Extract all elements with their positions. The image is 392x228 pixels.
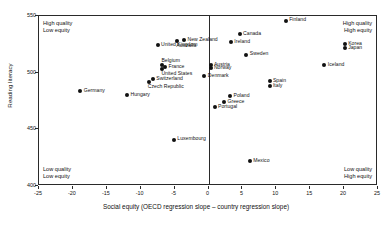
data-point xyxy=(343,46,347,50)
data-point xyxy=(268,84,272,88)
data-point-label: Iceland xyxy=(328,62,345,68)
data-point-label: United Kingdom xyxy=(161,42,198,48)
quadrant-note-bottom-left-line2: Low equity xyxy=(43,173,71,180)
y-axis-tick-label: 400 xyxy=(27,182,36,188)
data-point xyxy=(172,138,176,142)
x-axis-tick-label: -5 xyxy=(171,190,176,196)
x-axis-tick-label: -25 xyxy=(34,190,42,196)
y-axis-tick-label: 450 xyxy=(27,125,36,131)
quadrant-note-bottom-left-line1: Low quality xyxy=(43,166,71,172)
data-point-label: Switzerland xyxy=(156,76,183,82)
data-point-label: Japan xyxy=(348,45,362,51)
data-point xyxy=(78,89,82,93)
scatter-chart-figure: High quality Low equity High quality Hig… xyxy=(0,0,392,228)
data-point-label: France xyxy=(169,64,185,70)
x-axis-tick-label: 25 xyxy=(374,190,380,196)
x-axis-tick xyxy=(106,186,107,189)
data-point xyxy=(209,66,213,70)
y-axis-tick-label: 550 xyxy=(27,12,36,18)
data-point-label: Czech Republic xyxy=(148,84,184,90)
data-point xyxy=(213,105,217,109)
x-axis-tick xyxy=(343,186,344,189)
data-point-label: Finland xyxy=(289,17,306,23)
data-point-label: Italy xyxy=(273,83,282,89)
data-point xyxy=(268,79,272,83)
data-point xyxy=(238,32,242,36)
data-point-label: Norway xyxy=(214,65,231,71)
x-axis-tick xyxy=(309,186,310,189)
data-point-label: Hungary xyxy=(131,92,150,98)
x-axis-tick xyxy=(174,186,175,189)
quadrant-note-bottom-right: Low quality High equity xyxy=(344,166,372,180)
x-axis-tick-label: 20 xyxy=(340,190,346,196)
data-point xyxy=(156,43,160,47)
data-point xyxy=(248,159,252,163)
data-point xyxy=(229,40,233,44)
data-point-label: Sweden xyxy=(250,51,269,57)
y-axis-label: Reading literacy xyxy=(6,41,13,131)
y-axis-tick-label: 500 xyxy=(27,69,36,75)
data-point-label: Luxembourg xyxy=(177,136,206,142)
plot-area: High quality Low equity High quality Hig… xyxy=(38,15,377,185)
x-axis-tick xyxy=(72,186,73,189)
quadrant-note-top-right: High quality High equity xyxy=(343,20,372,34)
x-axis-tick-label: 10 xyxy=(272,190,278,196)
x-axis-tick xyxy=(275,186,276,189)
data-point-label: Portugal xyxy=(218,104,237,110)
data-point-label: Mexico xyxy=(253,158,269,164)
quadrant-note-top-left: High quality Low equity xyxy=(43,20,72,34)
quadrant-note-bottom-left: Low quality Low equity xyxy=(43,166,71,180)
x-axis-tick-label: -10 xyxy=(136,190,144,196)
data-point-label: Germany xyxy=(84,88,105,94)
x-axis-tick-label: -15 xyxy=(102,190,110,196)
data-point xyxy=(202,74,206,78)
data-point-label: Canada xyxy=(243,31,261,37)
data-point-label: Denmark xyxy=(208,73,229,79)
x-axis-tick-label: 15 xyxy=(306,190,312,196)
data-point xyxy=(151,77,155,81)
data-point xyxy=(284,19,288,23)
x-axis-tick-label: 0 xyxy=(206,190,209,196)
quadrant-note-top-left-line1: High quality xyxy=(43,20,72,26)
x-axis-tick xyxy=(377,186,378,189)
quadrant-note-top-right-line1: High quality xyxy=(343,20,372,26)
x-axis-tick-label: -20 xyxy=(68,190,76,196)
quadrant-note-bottom-right-line2: High equity xyxy=(344,173,372,180)
x-axis-tick xyxy=(38,186,39,189)
x-axis-tick xyxy=(208,186,209,189)
x-axis-tick xyxy=(241,186,242,189)
data-point xyxy=(125,93,129,97)
data-point-label: Ireland xyxy=(234,39,250,45)
x-axis-label: Social equity (OECD regression slope – c… xyxy=(0,203,392,210)
data-point xyxy=(322,63,326,67)
quadrant-note-top-left-line2: Low equity xyxy=(43,27,72,34)
quadrant-note-bottom-right-line1: Low quality xyxy=(344,166,372,172)
data-point xyxy=(244,53,248,57)
quadrant-note-top-right-line2: High equity xyxy=(343,27,372,34)
x-axis-tick-label: 5 xyxy=(240,190,243,196)
x-axis-tick xyxy=(140,186,141,189)
